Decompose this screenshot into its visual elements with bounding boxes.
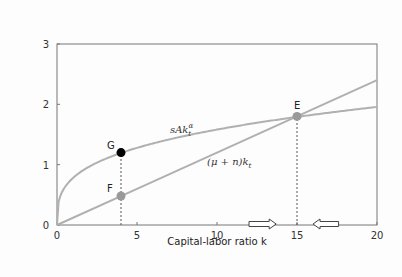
x-tick-label: 15 — [291, 230, 304, 241]
x-axis-label: Capital-labor ratio k — [167, 236, 267, 247]
point-label-G: G — [107, 140, 115, 151]
arrow-right-icon — [249, 219, 276, 229]
x-tick-label: 0 — [54, 230, 60, 241]
point-label-F: F — [107, 183, 113, 194]
depreciation-line — [57, 80, 377, 225]
point-F — [117, 192, 126, 201]
x-tick-label: 20 — [371, 230, 384, 241]
plot-frame — [57, 44, 377, 225]
point-label-E: E — [294, 100, 300, 111]
y-tick-label: 2 — [43, 99, 49, 110]
point-E — [293, 112, 302, 121]
direction-arrows — [249, 219, 339, 229]
y-tick-label: 1 — [43, 160, 49, 171]
arrow-left-icon — [313, 219, 339, 229]
y-tick-label: 3 — [43, 39, 49, 50]
axes: 051015200123 — [43, 39, 384, 241]
point-G — [117, 148, 126, 157]
x-tick-label: 5 — [134, 230, 140, 241]
curve-label-depreciation: (μ + n)kt — [207, 156, 252, 170]
y-tick-label: 0 — [43, 220, 49, 231]
dashed-guides — [121, 116, 297, 225]
points: GFE — [107, 100, 302, 200]
curves — [57, 80, 377, 225]
solow-chart: 051015200123 GFE sAkαt (μ + n)kt Capital… — [0, 0, 402, 277]
